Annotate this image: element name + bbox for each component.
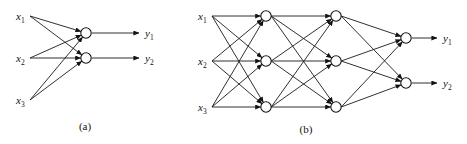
input-label-subscript: 3 <box>21 100 25 109</box>
node-output-layer-2 <box>401 78 411 88</box>
panel-b-output-labels: y1y2 <box>442 32 452 92</box>
edge-hidden-layer-1-2-to-hidden-layer-2-1 <box>271 64 332 107</box>
output-label-y2: y2 <box>442 77 452 92</box>
node-hidden-layer-1-2 <box>261 56 271 66</box>
input-label-subscript: 2 <box>203 61 207 70</box>
edge-hidden-layer-2-1-to-output-layer-1 <box>341 61 401 81</box>
input-label-x3: x3 <box>15 94 25 109</box>
node-output-layer-1 <box>401 33 411 43</box>
input-label-x3: x3 <box>197 101 207 116</box>
edge-hidden-layer-2-2-to-output-layer-1 <box>341 85 401 107</box>
input-label-subscript: 1 <box>203 16 207 25</box>
panel-b-nodes <box>261 11 411 112</box>
node-hidden-layer-2-2 <box>331 56 341 66</box>
panel-a: x1x2x3y1y2(a) <box>15 10 154 133</box>
edge-input-layer-0-to-output-layer-1 <box>30 16 82 55</box>
input-label-subscript: 2 <box>21 58 25 67</box>
input-label-x1: x1 <box>197 10 207 25</box>
node-hidden-layer-2-3 <box>331 102 341 112</box>
panel-b: x1x2x3y1y2(b) <box>197 10 452 136</box>
edge-hidden-layer-2-0-to-output-layer-1 <box>341 16 402 79</box>
edge-hidden-layer-2-2-to-output-layer-0 <box>341 42 402 107</box>
panel-b-output-arrows <box>412 38 437 83</box>
edge-hidden-layer-1-2-to-hidden-layer-2-0 <box>271 20 333 107</box>
panel-b-edges <box>212 16 402 107</box>
edge-hidden-layer-1-1-to-hidden-layer-2-2 <box>271 61 332 104</box>
network-diagram-canvas: x1x2x3y1y2(a)x1x2x3y1y2(b) <box>0 0 467 144</box>
edge-input-layer-2-to-output-layer-1 <box>30 61 82 100</box>
panel-caption-b: (b) <box>300 123 313 136</box>
input-label-subscript: 1 <box>21 16 25 25</box>
edge-input-layer-1-to-hidden-layer-1-2 <box>212 61 262 104</box>
output-label-y2: y2 <box>144 52 154 67</box>
input-label-x2: x2 <box>15 52 25 67</box>
edge-input-layer-1-to-output-layer-0 <box>30 35 81 58</box>
panel-a-edges <box>30 16 83 100</box>
panel-a-input-labels: x1x2x3 <box>15 10 25 109</box>
input-label-x2: x2 <box>197 55 207 70</box>
edge-input-layer-2-to-hidden-layer-1-1 <box>212 64 262 107</box>
input-label-x1: x1 <box>15 10 25 25</box>
panel-a-output-arrows <box>92 33 139 58</box>
node-output-layer-2 <box>81 53 91 63</box>
edge-hidden-layer-1-1-to-hidden-layer-2-0 <box>271 19 332 61</box>
edge-input-layer-2-to-hidden-layer-1-0 <box>212 20 263 107</box>
output-label-subscript: 2 <box>448 83 452 92</box>
output-label-subscript: 1 <box>448 38 452 47</box>
edge-hidden-layer-2-1-to-output-layer-0 <box>341 40 401 61</box>
output-label-subscript: 2 <box>150 58 154 67</box>
edge-input-layer-1-to-hidden-layer-1-0 <box>212 19 262 61</box>
output-label-subscript: 1 <box>150 33 154 42</box>
edge-input-layer-0-to-hidden-layer-1-1 <box>212 16 262 58</box>
panel-b-input-labels: x1x2x3 <box>197 10 207 116</box>
panel-a-nodes <box>81 28 91 63</box>
neural-network-figure: x1x2x3y1y2(a)x1x2x3y1y2(b) <box>0 0 467 144</box>
output-label-y1: y1 <box>144 27 154 42</box>
node-hidden-layer-1-1 <box>261 11 271 21</box>
panel-a-output-labels: y1y2 <box>144 27 154 67</box>
node-hidden-layer-1-3 <box>261 102 271 112</box>
edge-input-layer-0-to-output-layer-0 <box>30 16 81 31</box>
node-output-layer-1 <box>81 28 91 38</box>
output-label-y1: y1 <box>442 32 452 47</box>
edge-hidden-layer-1-0-to-hidden-layer-2-1 <box>271 16 332 58</box>
node-hidden-layer-2-1 <box>331 11 341 21</box>
edge-hidden-layer-1-0-to-hidden-layer-2-2 <box>271 16 333 103</box>
panel-caption-a: (a) <box>79 120 92 133</box>
edge-input-layer-0-to-hidden-layer-1-2 <box>212 16 263 103</box>
input-label-subscript: 3 <box>203 107 207 116</box>
edge-hidden-layer-2-0-to-output-layer-0 <box>341 16 401 36</box>
